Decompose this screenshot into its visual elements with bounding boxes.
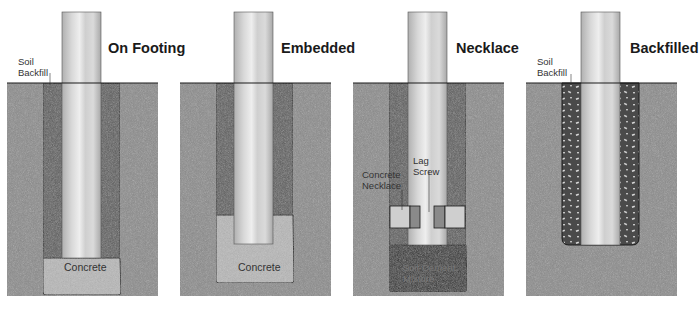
label-concrete: Concrete (64, 262, 107, 273)
wood-post (581, 12, 620, 245)
necklace-block-right (445, 206, 465, 228)
label-soil-cement: Soil-Cement (403, 262, 455, 273)
panel-title-on-footing: On Footing (108, 40, 185, 56)
necklace-inner-right (434, 206, 445, 228)
panel-title-backfilled: Backfilled (630, 40, 699, 56)
wood-post (234, 12, 273, 244)
label-concrete: Concrete (238, 262, 281, 273)
label-soil: Soil (537, 56, 553, 67)
label-mixture: Mixture (403, 273, 434, 284)
wood-post (62, 12, 101, 258)
label-concrete-necklace-2: Necklace (362, 180, 401, 191)
label-concrete-necklace-1: Concrete (362, 169, 401, 180)
panel-title-embedded: Embedded (281, 40, 355, 56)
necklace-block-left (390, 206, 410, 228)
label-backfill: Backfill (18, 67, 48, 78)
label-lag: Lag (413, 155, 429, 166)
label-backfill: Backfill (537, 67, 567, 78)
necklace-inner-left (410, 206, 420, 228)
label-screw: Screw (413, 166, 439, 177)
label-soil: Soil (18, 56, 34, 67)
panel-title-necklace: Necklace (456, 40, 519, 56)
